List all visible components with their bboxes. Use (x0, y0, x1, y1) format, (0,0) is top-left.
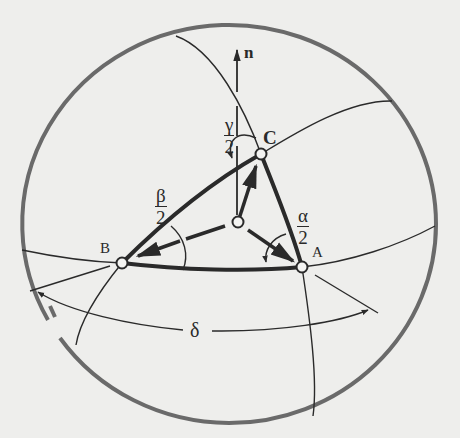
alpha-half-label: α 2 (297, 206, 309, 247)
beta-half-label: β 2 (155, 186, 167, 227)
vertex-a-label: A (312, 245, 323, 260)
vertex-b-dot (117, 258, 128, 269)
delta-label: δ (190, 320, 199, 340)
vector-n-label: n (244, 44, 253, 61)
delta-arc (38, 292, 183, 330)
center-dot (233, 217, 244, 228)
vertex-c-label: C (263, 128, 277, 147)
vertex-b-label: B (100, 241, 110, 256)
alpha-symbol: α (297, 206, 309, 227)
gamma-symbol: γ (224, 115, 234, 136)
diagram-canvas (0, 0, 460, 438)
vertex-a-dot (297, 262, 308, 273)
sphere-outline (22, 25, 436, 423)
spherical-triangle-figure: n C B A γ 2 β 2 α 2 δ (0, 0, 460, 438)
gamma-denominator: 2 (224, 136, 234, 156)
great-circles (22, 36, 435, 416)
gamma-half-label: γ 2 (224, 115, 234, 156)
beta-denominator: 2 (156, 207, 166, 227)
vertex-c-dot (256, 149, 267, 160)
alpha-denominator: 2 (298, 227, 308, 247)
beta-symbol: β (155, 186, 167, 207)
delta-rays (30, 266, 378, 313)
delta-arc-right (212, 310, 368, 331)
